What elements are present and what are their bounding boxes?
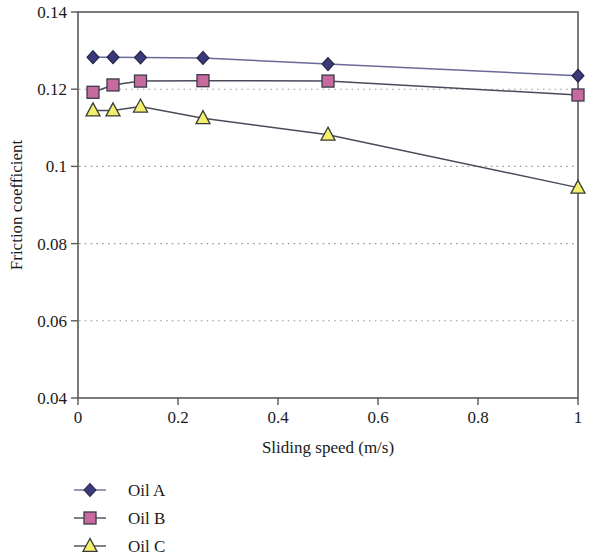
legend-label: Oil C: [128, 537, 165, 556]
y-tick-label: 0.04: [37, 389, 67, 408]
chart-figure: 0.040.060.080.10.120.14 00.20.40.60.81 S…: [0, 0, 591, 557]
x-axis-ticks: 00.20.40.60.81: [74, 398, 583, 427]
legend-item-oil-a[interactable]: Oil A: [74, 481, 166, 500]
x-axis-title: Sliding speed (m/s): [262, 438, 394, 457]
data-point-marker-square: [87, 86, 99, 98]
data-point-marker-square: [197, 75, 209, 87]
data-point-marker-square: [107, 79, 119, 91]
series-oil-a: [87, 51, 584, 83]
friction-coefficient-line-chart: 0.040.060.080.10.120.14 00.20.40.60.81 S…: [0, 0, 591, 557]
data-point-marker-diamond: [87, 51, 99, 64]
data-point-marker-diamond: [572, 69, 584, 82]
data-point-marker-diamond: [322, 58, 334, 71]
x-tick-label: 0.2: [167, 408, 188, 427]
x-tick-label: 0.6: [367, 408, 388, 427]
data-point-marker-square: [572, 89, 584, 101]
y-tick-label: 0.14: [37, 3, 67, 22]
data-point-marker-triangle: [134, 99, 148, 112]
data-point-marker-diamond: [197, 51, 209, 64]
data-point-marker-diamond: [84, 484, 96, 497]
data-point-marker-square: [322, 75, 334, 87]
x-tick-label: 1: [574, 408, 583, 427]
data-point-marker-diamond: [107, 51, 119, 64]
y-tick-label: 0.1: [46, 157, 67, 176]
x-tick-label: 0.4: [267, 408, 289, 427]
gridlines: [79, 89, 577, 321]
x-tick-label: 0.8: [467, 408, 488, 427]
legend-label: Oil B: [128, 509, 165, 528]
data-point-marker-square: [84, 512, 96, 524]
legend-item-oil-c[interactable]: Oil C: [74, 537, 165, 556]
legend-item-oil-b[interactable]: Oil B: [74, 509, 165, 528]
chart-legend: Oil AOil BOil C: [74, 481, 166, 556]
y-axis-ticks: 0.040.060.080.10.120.14: [37, 3, 78, 408]
y-tick-label: 0.12: [37, 80, 67, 99]
data-point-marker-triangle: [83, 538, 97, 551]
data-point-marker-square: [135, 75, 147, 87]
data-point-marker-diamond: [135, 51, 147, 64]
series-line: [93, 81, 578, 95]
y-tick-label: 0.06: [37, 312, 67, 331]
series-oil-c: [86, 99, 585, 193]
series-line: [93, 57, 578, 76]
data-point-marker-triangle: [86, 103, 100, 116]
series-line: [93, 107, 578, 188]
x-tick-label: 0: [74, 408, 83, 427]
y-tick-label: 0.08: [37, 235, 67, 254]
y-axis-title: Friction coefficient: [7, 140, 26, 271]
data-series-layer: [86, 51, 585, 193]
series-oil-b: [87, 75, 584, 101]
legend-label: Oil A: [128, 481, 166, 500]
